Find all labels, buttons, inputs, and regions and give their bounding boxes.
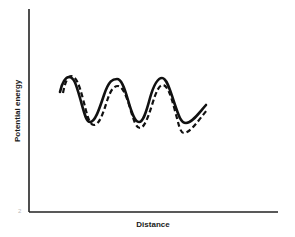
solid-curve [60,77,206,123]
dashed-curve [63,76,207,133]
y-axis-label: Potential energy [13,82,22,142]
corner-mark: 2 [18,208,21,214]
x-axis-label: Distance [128,220,178,229]
diagram-canvas [0,0,295,237]
potential-energy-diagram: Potential energy Distance 2 [0,0,295,237]
